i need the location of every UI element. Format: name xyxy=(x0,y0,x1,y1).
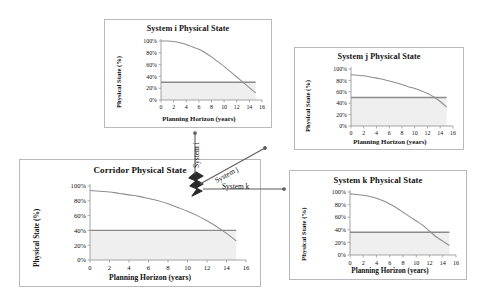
x-tick-label: 4 xyxy=(185,104,188,110)
y-tick-label: 20% xyxy=(336,112,347,118)
chart-inner-system-j: System j Physical State Physical State (… xyxy=(295,48,463,149)
y-tick-label: 40% xyxy=(146,74,157,80)
x-tick-label: 14 xyxy=(246,104,252,110)
x-tick-label: 14 xyxy=(437,130,443,136)
chart-inner-system-k: System k Physical State Physical State (… xyxy=(290,171,466,279)
x-tick-label: 16 xyxy=(450,130,456,136)
x-tick-label: 12 xyxy=(426,259,432,266)
chart-inner-system-i: System i Physical State Physical State (… xyxy=(105,20,271,127)
y-tick-label: 80% xyxy=(74,197,87,204)
chart-panel-system-i: System i Physical State Physical State (… xyxy=(104,19,272,128)
connector-label-system-i: System i xyxy=(192,142,201,168)
x-tick-label: 8 xyxy=(401,259,404,266)
y-tick-label: 80% xyxy=(146,50,157,56)
y-tick-label: 80% xyxy=(335,201,346,208)
x-tick-label: 16 xyxy=(243,264,250,271)
y-tick-label: 80% xyxy=(336,78,347,84)
x-tick-label: 2 xyxy=(172,104,175,110)
y-tick-label: 40% xyxy=(336,100,347,106)
y-tick-label: 40% xyxy=(74,227,87,234)
x-tick-label: 8 xyxy=(166,264,170,271)
x-tick-label: 10 xyxy=(413,259,419,266)
x-tick-label: 6 xyxy=(388,259,391,266)
chart-plot-system-i: 0%20%40%60%80%100%0246810121416 xyxy=(105,20,273,129)
y-tick-label: 60% xyxy=(335,213,346,220)
y-tick-label: 40% xyxy=(335,226,346,233)
x-tick-label: 14 xyxy=(223,264,230,271)
y-tick-label: 100% xyxy=(332,188,346,195)
chart-plot-system-k: 0%20%40%60%80%100%0246810121416 xyxy=(290,171,468,281)
x-tick-label: 6 xyxy=(197,104,200,110)
connector-label-system-k: System k xyxy=(222,182,249,191)
x-tick-label: 8 xyxy=(210,104,213,110)
x-tick-label: 16 xyxy=(259,104,265,110)
y-tick-label: 0% xyxy=(149,97,157,103)
y-tick-label: 60% xyxy=(146,62,157,68)
y-tick-label: 0% xyxy=(338,251,346,258)
y-tick-label: 100% xyxy=(143,38,157,44)
y-tick-label: 20% xyxy=(74,242,87,249)
x-tick-label: 12 xyxy=(204,264,211,271)
x-tick-label: 12 xyxy=(425,130,431,136)
y-tick-label: 0% xyxy=(77,256,86,263)
y-tick-label: 20% xyxy=(146,85,157,91)
threshold-shaded-region xyxy=(351,98,447,127)
y-tick-label: 20% xyxy=(335,239,346,246)
x-tick-label: 0 xyxy=(348,259,351,266)
y-tick-label: 0% xyxy=(339,123,347,129)
x-tick-label: 8 xyxy=(401,130,404,136)
x-tick-label: 4 xyxy=(127,264,131,271)
x-tick-label: 0 xyxy=(88,264,92,271)
x-tick-label: 14 xyxy=(440,259,446,266)
x-tick-label: 4 xyxy=(375,130,378,136)
x-tick-label: 2 xyxy=(108,264,111,271)
x-tick-label: 10 xyxy=(221,104,227,110)
x-tick-label: 6 xyxy=(388,130,391,136)
y-tick-label: 100% xyxy=(71,182,87,189)
x-tick-label: 0 xyxy=(160,104,163,110)
x-tick-label: 2 xyxy=(362,130,365,136)
chart-plot-system-j: 0%20%40%60%80%100%0246810121416 xyxy=(295,48,465,151)
x-tick-label: 10 xyxy=(412,130,418,136)
x-tick-label: 10 xyxy=(184,264,191,271)
x-tick-label: 0 xyxy=(350,130,353,136)
chart-panel-system-j: System j Physical State Physical State (… xyxy=(294,47,464,150)
x-tick-label: 4 xyxy=(375,259,378,266)
x-tick-label: 12 xyxy=(234,104,240,110)
y-tick-label: 60% xyxy=(336,89,347,95)
x-tick-label: 6 xyxy=(147,264,151,271)
x-tick-label: 16 xyxy=(453,259,459,266)
x-tick-label: 2 xyxy=(362,259,365,266)
y-tick-label: 100% xyxy=(333,66,347,72)
figure-canvas: System i Physical State Physical State (… xyxy=(0,0,477,294)
threshold-shaded-region xyxy=(90,230,236,260)
chart-panel-system-k: System k Physical State Physical State (… xyxy=(289,170,467,280)
threshold-shaded-region xyxy=(161,82,256,100)
y-tick-label: 60% xyxy=(74,212,87,219)
